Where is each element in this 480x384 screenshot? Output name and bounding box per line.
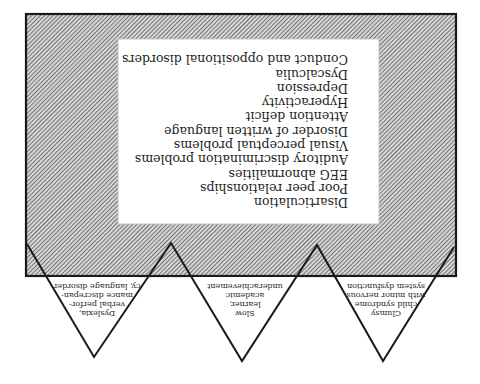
subgroup-line: Dyslexia,	[79, 309, 116, 318]
subgroup-line: with minor nervous	[346, 291, 425, 300]
subgroup-line: Slow	[235, 309, 255, 318]
characteristic-item: Poor peer relationships	[200, 181, 348, 196]
subgroup-line: verbal perfor-	[69, 300, 126, 309]
subgroup-line: underachievement	[206, 282, 282, 291]
subgroup-line: system dysfunction	[347, 282, 425, 291]
subgroup-line: mance discrepan-	[61, 291, 133, 300]
characteristic-item: Visual perceptual problems	[174, 138, 349, 153]
subgroup-line: child syndrome	[355, 300, 418, 309]
characteristic-item: Attention deficit	[245, 109, 349, 124]
subgroup-line: academic	[225, 291, 264, 300]
subgroup-line: Clumsy	[371, 309, 402, 318]
characteristic-item: Depression	[277, 81, 348, 96]
characteristic-item: Dyscalculia	[275, 67, 348, 82]
characteristic-item: Disorder of written language	[164, 124, 348, 139]
subgroup-line: cy, language disorder	[53, 282, 140, 291]
characteristic-item: Auditory discrimination problems	[135, 152, 349, 167]
learning-disability-diagram: Disarticulation Poor peer relationships …	[0, 0, 480, 384]
subgroup-line: learner,	[229, 300, 260, 309]
characteristic-item: EEG abnormalities	[229, 167, 348, 182]
characteristic-item: Conduct and oppositional disorders	[122, 52, 348, 67]
characteristic-item: Hyperactivity	[261, 95, 348, 110]
characteristic-item: Disarticulation	[254, 195, 348, 210]
subgroup-label-dyslexia: Dyslexia, verbal perfor- mance discrepan…	[53, 282, 140, 318]
